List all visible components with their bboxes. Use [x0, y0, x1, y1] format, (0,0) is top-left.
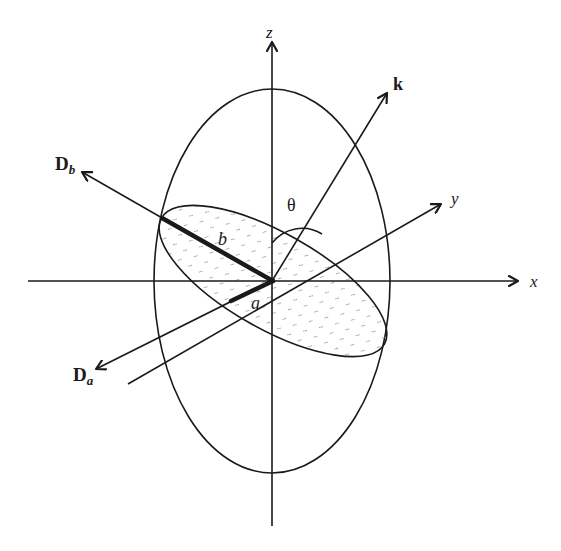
- Da-label: Da: [73, 364, 94, 388]
- k-vector-label: k: [393, 74, 403, 94]
- Da-label-main: D: [73, 364, 87, 385]
- k-vector: [272, 93, 387, 281]
- Db-label-sub: b: [69, 162, 76, 177]
- z-axis-label: z: [265, 23, 273, 42]
- index-ellipsoid-diagram: z x y k Db Da b a θ: [0, 0, 561, 551]
- theta-label: θ: [287, 195, 296, 215]
- y-axis-label: y: [449, 189, 459, 208]
- semi-axis-b-label: b: [218, 229, 227, 249]
- Db-label: Db: [55, 153, 76, 177]
- semi-axis-a-label: a: [251, 293, 260, 313]
- Db-label-main: D: [55, 153, 69, 174]
- x-axis-label: x: [529, 272, 538, 291]
- Da-label-sub: a: [87, 373, 94, 388]
